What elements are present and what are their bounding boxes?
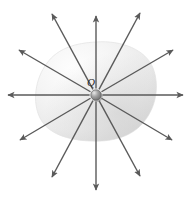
charge-label: Q [87,76,95,88]
figure-container: Q [0,0,190,198]
gaussian-surface-diagram: Q [0,0,190,198]
charge-sphere [91,90,101,100]
